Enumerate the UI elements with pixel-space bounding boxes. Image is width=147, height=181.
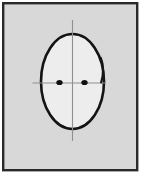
right-eye-dot <box>81 80 87 85</box>
screenshot-canvas: Line drawing of a head: oval outline wit… <box>0 0 147 181</box>
face-sketch-svg <box>0 0 147 181</box>
drawing-frame <box>0 0 147 181</box>
left-eye-dot <box>56 80 62 85</box>
